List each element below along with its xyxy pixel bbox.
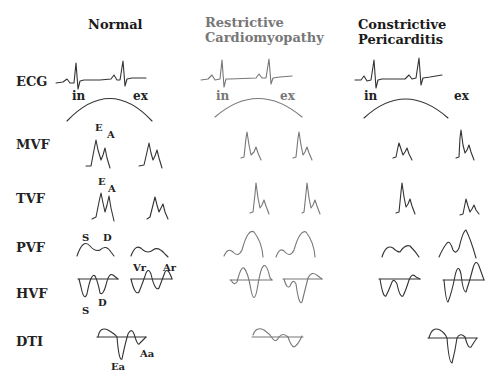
mvf-wave-constrictive-1 <box>393 143 412 160</box>
waveform-diagram <box>0 0 498 378</box>
pvf-wave-restrictive-1 <box>224 231 263 257</box>
tvf-wave-constrictive-2 <box>460 199 479 215</box>
mvf-wave-normal-1 <box>86 140 110 168</box>
tvf-wave-restrictive-1 <box>250 183 269 214</box>
hvf-wave-normal-1 <box>79 274 118 296</box>
ecg-trace-constrictive <box>355 58 442 88</box>
dti-wave-restrictive <box>253 329 302 347</box>
ecg-trace-restrictive <box>201 59 292 87</box>
pvf-wave-constrictive-2 <box>439 230 476 258</box>
hvf-wave-constrictive-2 <box>444 262 484 302</box>
hvf-wave-restrictive-2 <box>284 273 322 302</box>
resp-arc-restrictive <box>215 99 302 118</box>
constrictive-column-waves <box>355 58 484 363</box>
tvf-wave-normal-1 <box>92 193 114 221</box>
hvf-wave-normal-2 <box>131 270 172 292</box>
dti-wave-constrictive <box>429 329 477 363</box>
pvf-wave-normal-2 <box>131 247 168 257</box>
resp-arc-constrictive <box>364 99 448 118</box>
mvf-wave-restrictive-2 <box>293 132 312 160</box>
dti-wave-normal <box>98 329 146 359</box>
mvf-wave-constrictive-2 <box>456 130 474 160</box>
pvf-wave-restrictive-2 <box>276 232 315 257</box>
hvf-wave-constrictive-1 <box>380 275 420 296</box>
hvf-wave-restrictive-1 <box>231 266 272 298</box>
pvf-wave-normal-1 <box>77 244 114 256</box>
mvf-wave-restrictive-1 <box>241 132 261 160</box>
tvf-wave-constrictive-1 <box>396 183 415 214</box>
pvf-wave-constrictive-1 <box>382 246 419 257</box>
restrictive-column-waves <box>201 59 322 347</box>
mvf-wave-normal-2 <box>139 143 162 168</box>
resp-arc-normal <box>67 99 152 122</box>
normal-column-waves <box>56 61 172 359</box>
ecg-trace-normal <box>56 61 146 89</box>
tvf-wave-restrictive-2 <box>302 183 320 214</box>
tvf-wave-normal-2 <box>147 197 168 219</box>
